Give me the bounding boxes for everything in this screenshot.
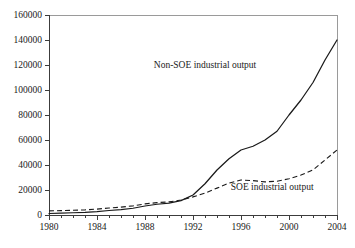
y-axis-ticks xyxy=(45,15,49,215)
series-annotation-label: SOE industrial output xyxy=(231,182,314,192)
line-chart: 0200004000060000800001000001200001400001… xyxy=(0,0,355,248)
series-line-soe xyxy=(49,150,337,211)
y-tick-label: 60000 xyxy=(18,135,42,145)
x-tick-label: 1984 xyxy=(88,222,107,232)
y-tick-label: 120000 xyxy=(14,60,43,70)
x-tick-label: 2000 xyxy=(280,222,299,232)
x-axis-ticks xyxy=(49,215,337,220)
x-axis-tick-labels: 1980198419881992199620002004 xyxy=(40,222,347,232)
x-tick-label: 1988 xyxy=(136,222,155,232)
x-tick-label: 1980 xyxy=(40,222,59,232)
chart-page: 0200004000060000800001000001200001400001… xyxy=(0,0,355,248)
y-tick-label: 40000 xyxy=(18,160,42,170)
annotation-layer: Non-SOE industrial outputSOE industrial … xyxy=(154,60,314,193)
y-tick-label: 20000 xyxy=(18,185,42,195)
y-tick-label: 100000 xyxy=(14,85,43,95)
x-tick-label: 1992 xyxy=(184,222,203,232)
y-tick-label: 140000 xyxy=(14,35,43,45)
series-annotation-label: Non-SOE industrial output xyxy=(154,60,257,70)
y-tick-label: 80000 xyxy=(18,110,42,120)
x-tick-label: 1996 xyxy=(232,222,251,232)
x-tick-label: 2004 xyxy=(328,222,347,232)
y-axis-tick-labels: 0200004000060000800001000001200001400001… xyxy=(14,10,43,220)
y-tick-label: 160000 xyxy=(14,10,43,20)
y-tick-label: 0 xyxy=(37,210,42,220)
